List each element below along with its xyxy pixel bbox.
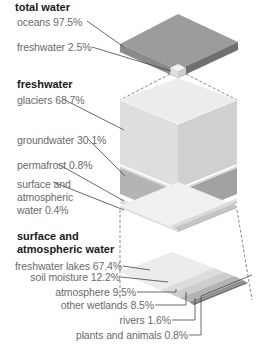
heading-total-water: total water: [15, 1, 70, 14]
glaciers-cube: [120, 78, 237, 188]
label-soil-moisture: soil moisture 12.2%: [30, 271, 120, 283]
label-glaciers: glaciers 68.7%: [17, 94, 84, 106]
label-oceans: oceans 97.5%: [17, 16, 82, 28]
label-surface-water-line1: surface and: [17, 178, 71, 190]
label-other-wetlands: other wetlands 8.5%: [61, 299, 154, 311]
surface-breakdown-layers: [120, 252, 248, 305]
heading-freshwater: freshwater: [17, 78, 73, 91]
heading-surface-line1: surface and: [17, 230, 79, 243]
label-surface-water-line2: atmospheric: [17, 191, 73, 203]
label-rivers: rivers 1.6%: [120, 314, 171, 326]
label-groundwater: groundwater 30.1%: [17, 134, 106, 146]
leader-oceans: [87, 21, 124, 47]
label-atmosphere: atmosphere 9.5%: [55, 286, 136, 298]
label-permafrost: permafrost 0.8%: [17, 159, 93, 171]
label-plants-animals: plants and animals 0.8%: [76, 329, 188, 341]
label-surface-water-line3: water 0.4%: [17, 204, 69, 216]
label-freshwater: freshwater 2.5%: [17, 41, 91, 53]
water-distribution-diagram: total water oceans 97.5% freshwater 2.5%…: [0, 0, 260, 345]
heading-surface-line2: atmospheric water: [17, 243, 114, 256]
